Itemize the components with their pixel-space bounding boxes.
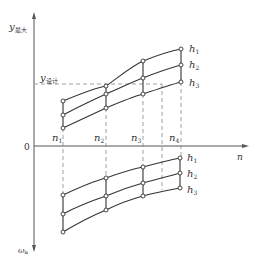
lower-curve-h3: [63, 188, 180, 232]
x-axis: [34, 144, 249, 148]
n2-label: n2: [94, 132, 104, 144]
y-max-label: y最大: [8, 21, 27, 34]
upper-points: [61, 47, 183, 130]
lower-curve-h2: [63, 173, 180, 214]
lower-h3-label: h3: [187, 184, 197, 196]
upper-h2-label: h2: [189, 59, 199, 71]
upper-h3-label: h3: [189, 77, 199, 89]
n3-label: n3: [131, 132, 141, 144]
y-axis: [32, 12, 36, 252]
pump-characteristic-diagram: y最大 y设计 0 n ωa n1 n2 n3 n4 h1 h2 h3 h1 h…: [0, 0, 257, 268]
lower-h2-label: h2: [187, 168, 197, 180]
upper-curves: [61, 47, 183, 130]
origin-label: 0: [24, 142, 30, 152]
y-axis-arrow-icon: [32, 12, 36, 19]
n4-label: n4: [169, 132, 179, 144]
n1-label: n1: [52, 132, 62, 144]
omega-axis-arrow-icon: [32, 245, 36, 252]
y-design-label: y设计: [39, 72, 58, 85]
lower-curves: [61, 156, 182, 234]
upper-curve-h1: [63, 49, 181, 101]
upper-curve-h2: [63, 65, 181, 115]
upper-h1-label: h1: [189, 43, 199, 55]
lower-h1-label: h1: [187, 152, 197, 164]
omega-axis-label: ωa: [18, 246, 29, 255]
x-axis-label: n: [237, 152, 243, 162]
upper-curve-h3: [63, 82, 181, 128]
x-axis-arrow-icon: [242, 144, 249, 148]
